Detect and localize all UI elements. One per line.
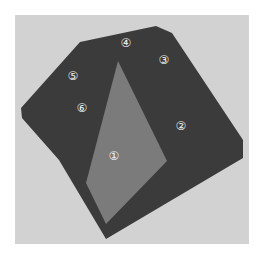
face-label-4: ④	[119, 36, 133, 50]
face-label-2: ②	[174, 119, 188, 133]
face-label-1: ①	[107, 149, 121, 163]
face-label-6: ⑥	[75, 101, 89, 115]
face-label-3: ③	[157, 53, 171, 67]
face-label-5: ⑤	[66, 69, 80, 83]
